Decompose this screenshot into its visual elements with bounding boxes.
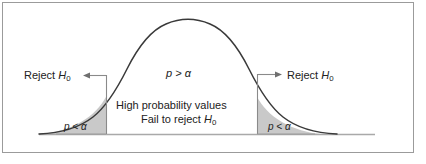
label-p-less-than-alpha-right: p < α [268,121,291,132]
reject-right-text: Reject [287,69,321,81]
tail-right-alpha-symbol: α [285,121,291,132]
center-alpha-symbol: α [185,67,191,79]
label-reject-h0-left: Reject H0 [24,69,71,83]
center-relation-symbol: > [172,67,185,79]
figure-frame: Reject H0 Reject H0 p > α High probabili… [2,2,414,153]
left-arrowhead-icon [83,73,90,79]
fail-reject-subscript: 0 [212,118,216,127]
label-p-less-than-alpha-left: p < α [64,121,87,132]
reject-right-subscript: 0 [329,74,333,83]
label-reject-h0-right: Reject H0 [287,69,334,83]
tail-left-alpha-symbol: α [81,121,87,132]
tail-left-relation-symbol: < [70,121,81,132]
reject-right-symbol: H [321,69,329,81]
tail-right-relation-symbol: < [274,121,285,132]
reject-left-symbol: H [58,69,66,81]
label-p-greater-than-alpha: p > α [166,67,191,79]
label-fail-to-reject-h0: Fail to reject H0 [141,113,216,127]
reject-left-subscript: 0 [66,74,70,83]
right-arrowhead-icon [275,72,282,78]
label-high-probability-values: High probability values [116,99,227,111]
fail-reject-text: Fail to reject [141,113,204,125]
fail-reject-symbol: H [204,113,212,125]
reject-left-text: Reject [24,69,58,81]
